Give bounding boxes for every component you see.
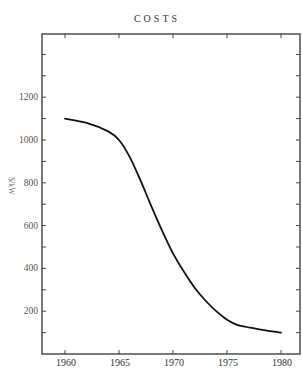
y-tick-label: 200 xyxy=(24,306,39,316)
y-tick-label: 400 xyxy=(24,263,39,273)
costs-series-line xyxy=(65,119,281,333)
y-axis-ticks xyxy=(42,54,300,332)
y-tick-label: 600 xyxy=(24,221,39,231)
y-tick-label: 1200 xyxy=(19,92,38,102)
plot-frame xyxy=(42,34,300,354)
y-tick-label: 800 xyxy=(24,178,39,188)
x-tick-label: 1980 xyxy=(272,357,292,368)
y-axis-label: $/kW xyxy=(7,177,16,195)
costs-line-chart: COSTS 20040060080010001200 1960196519701… xyxy=(0,0,302,368)
x-tick-label: 1970 xyxy=(164,357,184,368)
x-tick-label: 1965 xyxy=(110,357,130,368)
x-tick-label: 1975 xyxy=(218,357,238,368)
x-axis-ticks xyxy=(65,34,281,354)
x-tick-label: 1960 xyxy=(56,357,76,368)
y-tick-label: 1000 xyxy=(19,135,38,145)
x-axis-tick-labels: 19601965197019751980 xyxy=(56,357,292,368)
chart-title: COSTS xyxy=(134,13,180,24)
plot-border xyxy=(42,34,300,354)
y-axis-tick-labels: 20040060080010001200 xyxy=(19,92,38,316)
